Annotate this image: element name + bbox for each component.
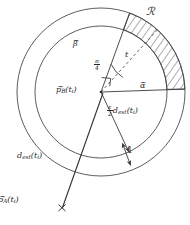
t-dashed-ray (101, 30, 157, 92)
t-ray-label: t (125, 51, 128, 59)
diagram-canvas (0, 0, 190, 225)
annulus-diagram: ℛ ~ β π 4 t ~ α ~ pB (ti) ε 2 (0, 0, 190, 225)
region-R-label: ℛ (146, 6, 155, 17)
center-point-marker (100, 91, 103, 94)
radius-arrow (101, 92, 129, 152)
radius-arg-close: ) (135, 106, 138, 115)
region-R-hatched-sector (123, 13, 184, 89)
beta-tilde-accent: ~ (73, 37, 78, 45)
alpha-label: ~ α (140, 82, 145, 90)
pB-arg-close: ) (74, 85, 77, 94)
dest-arg-close: ) (39, 151, 42, 160)
pA-tilde-accent: ~ (0, 193, 7, 201)
dest-distance-label: dest(ti) (17, 152, 42, 161)
alpha-tilde-accent: ~ (140, 79, 145, 87)
annulus-width-label: 1 (127, 146, 133, 155)
dest-line (63, 93, 104, 208)
pA-cross-marker (59, 205, 66, 212)
pA-point-label: ~ pA (ti) (0, 196, 19, 205)
four-denominator: 4 (94, 65, 100, 71)
radius-d-subscript: est (118, 109, 127, 115)
beta-label: ~ β (73, 40, 78, 48)
pA-arg-close: ) (15, 195, 18, 204)
radius-length-label: ε 2 dest(ti) (107, 104, 138, 118)
pB-tilde-accent: ~ (56, 83, 65, 91)
center-point-label: ~ pB (ti) (56, 86, 77, 95)
pi-over-4-label: π 4 (94, 56, 100, 72)
pi-over-4-angle-arc (111, 64, 123, 77)
dest-subscript: est (22, 154, 31, 160)
